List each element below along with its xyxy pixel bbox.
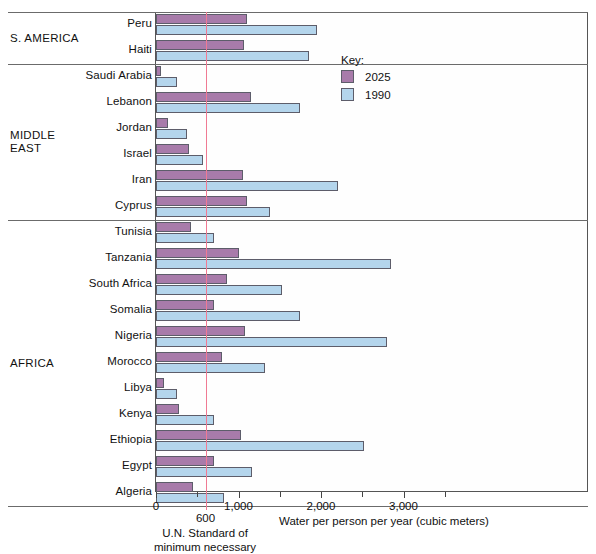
un-standard-caption: U.N. Standard ofminimum necessary (110, 526, 300, 554)
country-label: Peru (127, 17, 152, 29)
country-label: Kenya (119, 407, 152, 419)
country-label: South Africa (89, 277, 152, 289)
bar-1990 (156, 467, 252, 477)
x-tick (239, 492, 240, 498)
bar-2025 (156, 222, 191, 232)
un-caption-line: U.N. Standard of (110, 526, 300, 540)
country-label: Somalia (110, 303, 152, 315)
chart-row: Kenya (0, 402, 596, 428)
region-label: MIDDLE EAST (10, 129, 55, 155)
chart-row: Saudi Arabia (0, 64, 596, 90)
chart-row: Ethiopia (0, 428, 596, 454)
region-label: AFRICA (10, 357, 54, 370)
bar-1990 (156, 207, 270, 217)
bar-2025 (156, 40, 244, 50)
chart-row: Tunisia (0, 220, 596, 246)
chart-row: South Africa (0, 272, 596, 298)
x-tick (156, 492, 157, 498)
chart-row: Haiti (0, 38, 596, 64)
x-minor-tick (362, 492, 363, 497)
x-tick-label: 3,000 (389, 500, 418, 512)
country-label: Cyprus (115, 199, 152, 211)
bar-2025 (156, 66, 161, 76)
country-label: Saudi Arabia (86, 69, 152, 81)
bar-2025 (156, 352, 222, 362)
chart-row: Israel (0, 142, 596, 168)
bar-2025 (156, 482, 193, 492)
country-label: Israel (123, 147, 152, 159)
bar-1990 (156, 77, 177, 87)
bar-1990 (156, 441, 364, 451)
legend-swatch-1990 (341, 88, 354, 101)
bar-2025 (156, 196, 247, 206)
bar-2025 (156, 144, 189, 154)
bar-1990 (156, 25, 317, 35)
group-separator (8, 12, 588, 13)
x-tick (404, 492, 405, 498)
bar-2025 (156, 326, 245, 336)
chart-row: Cyprus (0, 194, 596, 220)
chart-row: Nigeria (0, 324, 596, 350)
chart-row: Jordan (0, 116, 596, 142)
x-minor-tick (280, 492, 281, 497)
un-caption-line: minimum necessary (110, 540, 300, 554)
bar-1990 (156, 181, 338, 191)
bar-2025 (156, 404, 179, 414)
x-tick-label: 1,000 (224, 500, 253, 512)
country-label: Morocco (107, 355, 152, 367)
bar-1990 (156, 363, 265, 373)
bar-1990 (156, 285, 282, 295)
x-minor-tick (197, 492, 198, 497)
country-label: Nigeria (115, 329, 152, 341)
legend-item-1990: 1990 (341, 88, 391, 101)
x-tick (321, 492, 322, 498)
country-label: Lebanon (107, 95, 152, 107)
country-label: Libya (124, 381, 152, 393)
chart-row: Lebanon (0, 90, 596, 116)
group-separator (8, 506, 588, 507)
legend-label-2025: 2025 (365, 71, 391, 83)
bar-2025 (156, 14, 247, 24)
region-label: S. AMERICA (10, 32, 79, 45)
country-label: Jordan (116, 121, 152, 133)
group-separator (8, 64, 588, 65)
bar-1990 (156, 389, 177, 399)
bar-1990 (156, 129, 187, 139)
x-tick-label: 2,000 (307, 500, 336, 512)
chart-row: Iran (0, 168, 596, 194)
country-label: Ethiopia (110, 433, 152, 445)
group-separator (8, 220, 588, 221)
legend-swatch-2025 (341, 70, 354, 83)
bar-2025 (156, 274, 227, 284)
x-minor-tick (445, 492, 446, 497)
un-standard-value-label: 600 (196, 512, 215, 524)
x-tick-label: 0 (153, 500, 159, 512)
chart-row: Libya (0, 376, 596, 402)
legend: Key: 2025 1990 (341, 54, 391, 106)
un-standard-line (206, 12, 207, 510)
legend-title: Key: (341, 54, 391, 66)
bar-2025 (156, 118, 168, 128)
chart-row: Tanzania (0, 246, 596, 272)
bar-1990 (156, 259, 391, 269)
country-label: Iran (132, 173, 152, 185)
country-label: Tunisia (115, 225, 152, 237)
bar-2025 (156, 170, 243, 180)
chart-row: Somalia (0, 298, 596, 324)
legend-label-1990: 1990 (365, 89, 391, 101)
bar-2025 (156, 378, 164, 388)
bar-1990 (156, 51, 309, 61)
chart-row: Morocco (0, 350, 596, 376)
country-label: Egypt (122, 459, 152, 471)
bar-2025 (156, 248, 239, 258)
country-label: Tanzania (105, 251, 152, 263)
country-label: Haiti (128, 43, 152, 55)
chart-row: Egypt (0, 454, 596, 480)
bar-1990 (156, 103, 300, 113)
bar-2025 (156, 430, 241, 440)
chart-row: Peru (0, 12, 596, 38)
bar-1990 (156, 337, 387, 347)
bar-2025 (156, 92, 251, 102)
chart-rows: PeruHaitiSaudi ArabiaLebanonJordanIsrael… (0, 12, 596, 492)
